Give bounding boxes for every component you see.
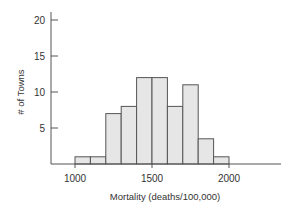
y-axis-label: # of Towns — [15, 69, 26, 114]
y-axis-ticks: 5101520 — [34, 15, 58, 134]
x-tick-label: 1000 — [64, 173, 87, 184]
histogram-bar — [75, 157, 90, 164]
x-axis-ticks: 100015002000 — [64, 164, 241, 184]
y-tick-label: 15 — [34, 51, 46, 62]
histogram-bar — [90, 157, 105, 164]
y-tick-label: 5 — [39, 123, 45, 134]
histogram-bar — [214, 157, 229, 164]
histogram-chart: 5101520 100015002000 Mortality (deaths/1… — [0, 0, 298, 216]
x-tick-label: 1500 — [141, 173, 164, 184]
histogram-bar — [183, 85, 198, 164]
histogram-bars — [75, 78, 229, 164]
histogram-bar — [167, 106, 182, 164]
x-axis-label: Mortality (deaths/100,000) — [110, 191, 220, 202]
histogram-bar — [121, 106, 136, 164]
y-tick-label: 10 — [34, 87, 46, 98]
x-tick-label: 2000 — [218, 173, 241, 184]
histogram-bar — [106, 114, 121, 164]
histogram-bar — [152, 78, 167, 164]
histogram-bar — [198, 139, 213, 164]
y-tick-label: 20 — [34, 15, 46, 26]
histogram-bar — [137, 78, 152, 164]
